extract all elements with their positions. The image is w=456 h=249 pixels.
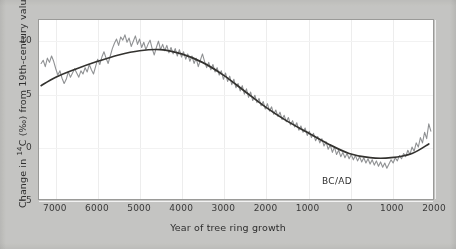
y-axis-title-superscript: 14	[16, 146, 24, 155]
x-tick-1: 6000	[85, 203, 109, 213]
horizontal-gridline--5	[39, 201, 433, 202]
data-series-layer	[39, 20, 433, 200]
x-tick-8: 1000	[380, 203, 404, 213]
y-axis-title: Change in 14C (‰) from 19th-century valu…	[16, 12, 28, 208]
x-tick-6: 1000	[296, 203, 320, 213]
smoothed-trend-line	[41, 49, 429, 158]
x-tick-5: 2000	[254, 203, 278, 213]
vertical-gridline-2000	[435, 20, 436, 199]
x-axis-tick-labels: 7000600050004000300020001000010002000	[38, 203, 434, 217]
y-axis-title-suffix: C (‰) from 19th-century value	[17, 0, 28, 146]
x-tick-7: 0	[347, 203, 353, 213]
x-axis-title: Year of tree ring growth	[0, 222, 456, 233]
x-tick-2: 5000	[127, 203, 151, 213]
x-tick-9: 2000	[422, 203, 446, 213]
y-axis-title-prefix: Change in	[17, 156, 28, 209]
x-tick-0: 7000	[43, 203, 67, 213]
chart-figure: 1050−5 Change in 14C (‰) from 19th-centu…	[0, 0, 456, 249]
plot-area	[38, 19, 434, 200]
x-tick-4: 3000	[212, 203, 236, 213]
measured-radiocarbon-line	[41, 35, 431, 168]
bc-ad-annotation: BC/AD	[322, 176, 352, 186]
x-tick-3: 4000	[169, 203, 193, 213]
